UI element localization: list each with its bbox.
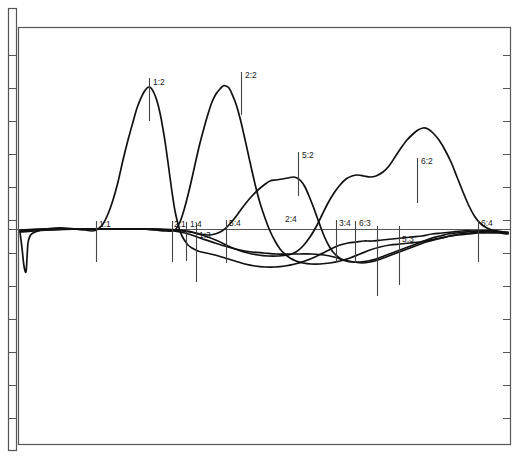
marker-label-m-6-4: 6:4	[481, 218, 493, 228]
marker-label-m-2-1: 2:1	[174, 219, 186, 229]
marker-label-m-3-4: 3:4	[339, 218, 351, 228]
marker-label-m-5-4: 5:4	[229, 218, 241, 228]
marker-label-m-1-2: 1:2	[153, 77, 165, 87]
waveform-plot[interactable]: 1:11:22:12:21:31:45:42:45:23:46:36:25:36…	[0, 0, 529, 459]
marker-label-m-2-2: 2:2	[245, 70, 257, 80]
marker-label-m-1-1: 1:1	[99, 219, 111, 229]
marker-label-m-5-2: 5:2	[302, 150, 314, 160]
marker-label-m-6-2: 6:2	[421, 156, 433, 166]
marker-label-m-1-3: 1:3	[199, 230, 211, 240]
plot-root: 1:11:22:12:21:31:45:42:45:23:46:36:25:36…	[0, 0, 529, 459]
marker-label-m-5-3: 5:3	[402, 234, 414, 244]
marker-label-m-1-4: 1:4	[190, 219, 202, 229]
marker-label-m-2-4: 2:4	[285, 214, 297, 224]
marker-label-m-6-3: 6:3	[359, 218, 371, 228]
